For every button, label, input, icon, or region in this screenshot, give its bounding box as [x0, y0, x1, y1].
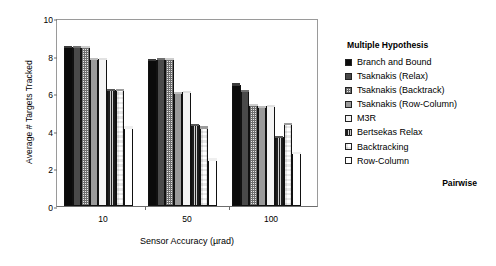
bar	[64, 47, 73, 206]
x-axis-tick-label: 10	[98, 214, 107, 224]
bar	[182, 92, 191, 206]
legend-item-label: Tsaknakis (Relax)	[357, 71, 428, 81]
legend-swatch-icon	[345, 129, 352, 136]
bar	[284, 124, 293, 206]
legend-swatch-icon	[345, 73, 352, 80]
bar-top-cap	[208, 158, 216, 161]
legend-item-label: Tsaknakis (Backtrack)	[357, 85, 445, 95]
chart-root: Average # Targets Tracked 0246810 105010…	[0, 0, 496, 266]
bar	[249, 105, 258, 206]
bar-top-cap	[292, 152, 300, 155]
x-axis-tick-label: 100	[264, 214, 278, 224]
legend-swatch-icon	[345, 143, 352, 150]
bar-top-cap	[116, 89, 124, 92]
bar	[174, 93, 183, 206]
legend-swatch-icon	[345, 157, 352, 164]
y-axis-title: Average # Targets Tracked	[24, 27, 34, 197]
bar-group	[148, 20, 226, 206]
legend-item-label: Backtracking	[357, 142, 409, 152]
x-axis-title: Sensor Accuracy (µrad)	[56, 236, 318, 246]
legend-footer: Pairwise	[345, 178, 495, 188]
bar-top-cap	[73, 46, 81, 49]
bar-top-cap	[183, 91, 191, 94]
bar	[292, 153, 301, 206]
bar-top-cap	[200, 126, 208, 129]
bar	[81, 47, 90, 206]
bar	[124, 128, 133, 206]
bar	[208, 160, 217, 206]
legend-swatch-icon	[345, 115, 352, 122]
bar	[157, 59, 166, 206]
bar	[241, 91, 250, 206]
bar-group	[64, 20, 142, 206]
x-axis-tick-mark	[229, 206, 230, 210]
y-axis-tick-mark	[54, 170, 58, 171]
bar-group	[232, 20, 310, 206]
bar-top-cap	[107, 89, 115, 92]
bar-top-cap	[124, 126, 132, 129]
bar-top-cap	[284, 123, 292, 126]
bar-top-cap	[148, 59, 156, 62]
legend-item-label: Branch and Bound	[357, 57, 432, 67]
plot-area: 0246810 1050100	[56, 19, 318, 207]
legend: Multiple Hypothesis Branch and BoundTsak…	[345, 40, 495, 188]
bar	[191, 125, 200, 206]
bar-top-cap	[81, 46, 89, 49]
bar	[165, 59, 174, 206]
bar	[90, 59, 99, 206]
legend-item[interactable]: Branch and Bound	[345, 57, 495, 67]
y-axis-tick-mark	[54, 132, 58, 133]
bar-top-cap	[232, 83, 240, 86]
bar	[266, 106, 275, 206]
legend-title: Multiple Hypothesis	[347, 40, 495, 50]
bar	[107, 90, 116, 206]
bar-series-container	[57, 20, 317, 206]
y-axis-tick-mark	[54, 95, 58, 96]
legend-item[interactable]: Row-Column	[345, 156, 495, 166]
legend-item-label: Tsaknakis (Row-Column)	[357, 99, 457, 109]
y-axis-tick-mark	[54, 57, 58, 58]
bar-top-cap	[258, 106, 266, 109]
legend-item[interactable]: Tsaknakis (Row-Column)	[345, 99, 495, 109]
bar-top-cap	[64, 46, 72, 49]
legend-item[interactable]: M3R	[345, 113, 495, 123]
bar-top-cap	[99, 58, 107, 61]
bar-top-cap	[157, 58, 165, 61]
bar	[116, 90, 125, 206]
bar	[232, 85, 241, 206]
legend-item[interactable]: Backtracking	[345, 142, 495, 152]
bar-top-cap	[267, 105, 275, 108]
bar-top-cap	[249, 104, 257, 107]
bar-top-cap	[191, 124, 199, 127]
legend-item[interactable]: Tsaknakis (Relax)	[345, 71, 495, 81]
y-axis-tick-mark	[54, 208, 58, 209]
bar-top-cap	[174, 92, 182, 95]
legend-item-label: Row-Column	[357, 156, 409, 166]
bar-top-cap	[90, 58, 98, 61]
x-axis-tick-label: 50	[182, 214, 191, 224]
bar-top-cap	[275, 136, 283, 139]
bar-top-cap	[241, 90, 249, 93]
x-axis-tick-mark	[145, 206, 146, 210]
legend-swatch-icon	[345, 101, 352, 108]
y-axis-tick-mark	[54, 20, 58, 21]
bar	[275, 137, 284, 206]
legend-item[interactable]: Tsaknakis (Backtrack)	[345, 85, 495, 95]
bar	[148, 60, 157, 206]
bar-top-cap	[165, 58, 173, 61]
bar	[200, 128, 209, 206]
bar	[98, 59, 107, 206]
legend-items: Branch and BoundTsaknakis (Relax)Tsaknak…	[345, 57, 495, 166]
legend-swatch-icon	[345, 87, 352, 94]
bar	[73, 47, 82, 206]
bar	[258, 107, 267, 206]
legend-swatch-icon	[345, 59, 352, 66]
legend-item-label: Bertsekas Relax	[357, 127, 423, 137]
legend-item[interactable]: Bertsekas Relax	[345, 127, 495, 137]
legend-item-label: M3R	[357, 113, 376, 123]
